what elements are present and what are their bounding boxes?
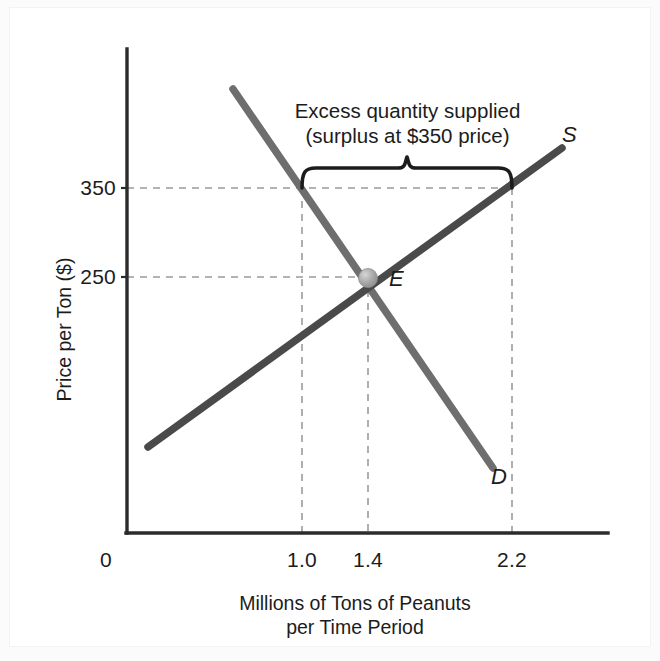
equilibrium-point-dot	[359, 269, 378, 288]
surplus-annotation-line2: (surplus at $350 price)	[275, 124, 540, 148]
guide-lines	[127, 188, 512, 532]
x-tick-label-1-4: 1.4	[338, 548, 398, 573]
x-tick-label-1-0: 1.0	[272, 548, 332, 573]
surplus-annotation-line1: Excess quantity supplied	[275, 99, 540, 123]
figure-container: Price per Ton ($) 350 250 1.0 1.4 2.2 0 …	[0, 0, 660, 661]
demand-curve-label: D	[491, 464, 507, 490]
surplus-bracket	[302, 157, 512, 188]
x-axis-title-line1: Millions of Tons of Peanuts	[210, 592, 500, 615]
y-axis-title: Price per Ton ($)	[53, 220, 76, 440]
y-tick-label-250: 250	[62, 265, 116, 290]
supply-curve-label: S	[562, 122, 577, 148]
x-axis-title-line2: per Time Period	[210, 616, 500, 639]
origin-label: 0	[91, 548, 121, 573]
equilibrium-point-label: E	[389, 266, 404, 292]
y-tick-label-350: 350	[62, 176, 116, 201]
supply-curve	[148, 148, 562, 447]
x-tick-label-2-2: 2.2	[482, 548, 542, 573]
